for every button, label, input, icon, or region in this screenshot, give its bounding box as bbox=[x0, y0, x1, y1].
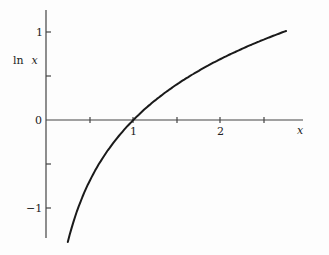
y-axis-label-fn: ln bbox=[13, 54, 24, 67]
x-tick-label-1: 1 bbox=[130, 125, 137, 138]
ln-curve bbox=[68, 31, 286, 242]
y-axis-label-var: x bbox=[32, 54, 39, 67]
y-tick-label-1: 1 bbox=[36, 26, 43, 39]
y-tick-label-0: 0 bbox=[35, 114, 42, 127]
y-axis-label: ln x bbox=[13, 50, 39, 67]
y-tick-label-neg1: −1 bbox=[26, 202, 42, 215]
x-tick-label-2: 2 bbox=[217, 125, 224, 138]
ln-chart: 1 0 −1 1 2 x ln x bbox=[0, 0, 329, 255]
x-axis-label: x bbox=[297, 124, 304, 137]
